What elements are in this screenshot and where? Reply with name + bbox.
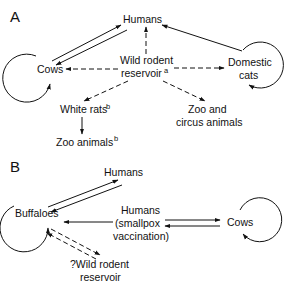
- edge-reservoir-to-white-rats: [84, 81, 128, 101]
- footnote-b-zoo: b: [114, 134, 118, 143]
- node-humans-b: Humans: [104, 166, 143, 178]
- node-reservoir-b-line2: reservoir: [80, 271, 121, 283]
- node-zoo-animals: Zoo animals: [56, 136, 113, 148]
- panel-a-label: A: [10, 8, 20, 25]
- panel-b-label: B: [10, 158, 20, 175]
- footnote-b-rats: b: [106, 102, 110, 111]
- edge-buffaloes-to-humans: [48, 180, 118, 207]
- edge-reservoir-to-zoo-circus: [163, 81, 205, 101]
- edge-cows-to-humans: [52, 25, 121, 61]
- footnote-a: a: [164, 66, 169, 75]
- node-humans-vacc-line2: (smallpox: [115, 217, 161, 229]
- node-reservoir-a-line1: Wild rodent: [120, 54, 173, 66]
- edge-reservoir-to-buffaloes: [47, 233, 96, 259]
- edge-cows-self-loop: [3, 54, 50, 102]
- transmission-diagram: A Humans Cows Wild rodent reservoir a Do…: [0, 0, 290, 299]
- node-cats-line1: Domestic: [228, 56, 272, 68]
- node-humans-a: Humans: [123, 13, 162, 25]
- node-cows-b: Cows: [227, 216, 253, 228]
- node-zoo-circus-line1: Zoo and: [188, 103, 227, 115]
- node-cows-a: Cows: [37, 63, 63, 75]
- node-buffaloes: Buffaloes: [15, 207, 59, 219]
- node-zoo-circus-line2: circus animals: [176, 116, 243, 128]
- node-reservoir-b-line1: ?Wild rodent: [70, 258, 129, 270]
- edge-buffaloes-to-reservoir: [51, 229, 100, 255]
- edge-cats-to-humans: [162, 25, 242, 51]
- node-reservoir-a-line2: reservoir: [121, 67, 162, 79]
- node-humans-vacc-line1: Humans: [121, 204, 160, 216]
- node-white-rats: White rats: [60, 103, 107, 115]
- edge-humans-to-buffaloes: [51, 185, 122, 212]
- node-cats-line2: cats: [239, 69, 258, 81]
- node-humans-vacc-line3: vaccination): [113, 230, 169, 242]
- edge-humans-to-cows: [56, 30, 127, 65]
